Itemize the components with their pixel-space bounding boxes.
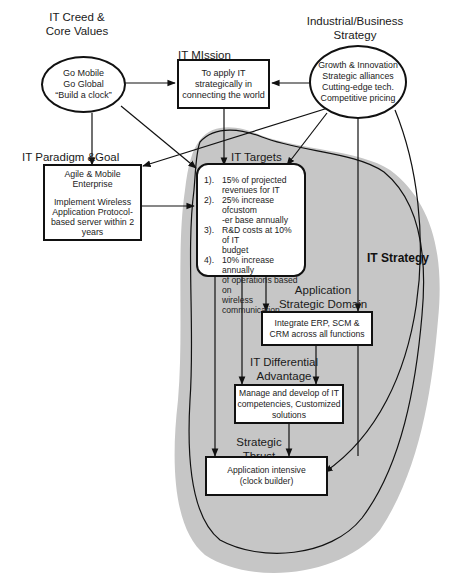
differential-box: Manage and develop of IT competencies, C…: [234, 384, 344, 424]
appdomain-box: Integrate ERP, SCM & CRM across all func…: [261, 311, 373, 346]
industrial-title: Industrial/Business Strategy: [300, 14, 410, 42]
differential-title: IT Differential Advantage: [245, 355, 323, 383]
target-item: 1). 15% of projected revenues for IT: [204, 175, 300, 195]
paradigm-box: Agile & Mobile Enterprise Implement Wire…: [43, 164, 142, 241]
paradigm-title-right: Goal: [95, 150, 119, 164]
target-item: 3). R&D costs at 10% of IT budget: [204, 225, 300, 255]
creed-title: IT Creed & Core Values: [22, 10, 132, 38]
industrial-ellipse: Growth & Innovation Strategic alliances …: [309, 45, 407, 119]
appdomain-title: Application Strategic Domain: [268, 283, 378, 311]
mission-box: To apply IT strategically in connecting …: [177, 59, 270, 109]
thrust-box: Application intensive (clock builder): [205, 456, 328, 496]
it-strategy-label: IT Strategy: [367, 251, 429, 265]
target-item: 2). 25% increase ofcustom -er base annua…: [204, 195, 300, 225]
paradigm-title-left: IT Paradigm &: [22, 150, 95, 164]
arrow-creed-to-targets: [121, 106, 196, 168]
targets-box: 1). 15% of projected revenues for IT 2).…: [196, 163, 306, 277]
creed-ellipse: Go Mobile Go Global “Build a clock”: [41, 56, 126, 113]
targets-title: IT Targets: [231, 150, 282, 164]
